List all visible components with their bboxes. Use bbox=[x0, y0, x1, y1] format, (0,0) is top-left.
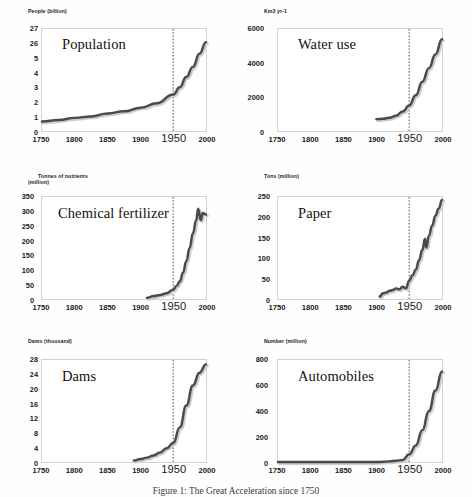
y-tick-label: 16 bbox=[30, 399, 38, 408]
y-tick-labels: 050100150200250300350 bbox=[8, 196, 34, 300]
x-tick-label: 2000 bbox=[199, 303, 216, 312]
x-tick-label: 1750 bbox=[33, 303, 50, 312]
x-tick-labels: 175018001850190019502000 bbox=[277, 303, 443, 317]
x-tick-label: 1800 bbox=[302, 303, 319, 312]
y-tick-label: 150 bbox=[22, 251, 34, 260]
y-tick-labels: 0123452627 bbox=[12, 28, 38, 132]
plot-area: Population bbox=[41, 28, 207, 132]
series-line-shadow bbox=[378, 41, 444, 121]
plot-area: Paper bbox=[277, 196, 443, 300]
x-tick-labels: 175018001850190019502000 bbox=[277, 135, 443, 149]
y-tick-labels: 0481216202428 bbox=[12, 359, 38, 463]
x-tick-label: 1750 bbox=[33, 466, 50, 475]
y-axis-unit-label: Km3 yr-1 bbox=[264, 8, 287, 14]
series-line bbox=[134, 364, 206, 460]
series-title: Paper bbox=[298, 205, 332, 222]
x-tick-label: 1850 bbox=[335, 135, 352, 144]
x-tick-label: 1900 bbox=[132, 303, 149, 312]
y-axis-unit-label: People (billion) bbox=[28, 8, 67, 14]
x-tick-label: 1900 bbox=[368, 466, 385, 475]
plot-area: Dams bbox=[41, 359, 207, 463]
y-tick-label: 100 bbox=[258, 254, 270, 263]
y-tick-label: 1 bbox=[34, 113, 38, 122]
x-tick-label: 1850 bbox=[99, 303, 116, 312]
y-tick-label: 800 bbox=[256, 355, 268, 364]
series-line bbox=[278, 371, 442, 462]
x-tick-label: 1850 bbox=[335, 303, 352, 312]
y-tick-label: 50 bbox=[262, 275, 270, 284]
y-tick-label: 600 bbox=[256, 381, 268, 390]
x-tick-label: 1850 bbox=[99, 135, 116, 144]
x-tick-label: 2000 bbox=[435, 466, 452, 475]
plot-area: Automobiles bbox=[277, 359, 443, 463]
series-line-shadow bbox=[279, 373, 443, 464]
chart-panel-chemical-fertilizer: Tonnes of nutrients (million) 0501001502… bbox=[0, 165, 236, 330]
x-tick-label: 2000 bbox=[199, 135, 216, 144]
x-tick-label: 2000 bbox=[199, 466, 216, 475]
x-tick-labels: 175018001850190019502000 bbox=[277, 466, 443, 480]
x-tick-label: 1850 bbox=[99, 466, 116, 475]
x-tick-label: 1950 bbox=[397, 132, 422, 144]
x-tick-label: 1800 bbox=[302, 466, 319, 475]
plot-area: Water use bbox=[277, 28, 443, 132]
y-tick-label: 6000 bbox=[248, 24, 264, 33]
y-tick-label: 27 bbox=[30, 24, 38, 33]
y-tick-label: 350 bbox=[22, 192, 34, 201]
x-tick-label: 1900 bbox=[132, 135, 149, 144]
x-tick-label: 1950 bbox=[397, 463, 422, 475]
x-tick-label: 2000 bbox=[435, 135, 452, 144]
y-tick-label: 28 bbox=[30, 355, 38, 364]
series-line bbox=[42, 42, 206, 121]
x-tick-label: 1950 bbox=[161, 132, 186, 144]
y-axis-unit-label: Number (million) bbox=[264, 338, 307, 344]
y-axis-unit-label: Dams (thousand) bbox=[28, 338, 72, 344]
chart-panel-automobiles: Number (million) 0200400600800 Automobil… bbox=[236, 330, 472, 481]
x-tick-label: 1750 bbox=[33, 135, 50, 144]
x-tick-label: 1750 bbox=[269, 466, 286, 475]
y-tick-label: 2 bbox=[34, 98, 38, 107]
chart-panel-paper: Tons (million) 050100150200250 Paper 175… bbox=[236, 165, 472, 330]
y-tick-label: 2000 bbox=[248, 93, 264, 102]
x-tick-label: 1750 bbox=[269, 303, 286, 312]
y-tick-label: 200 bbox=[22, 236, 34, 245]
y-tick-label: 12 bbox=[30, 414, 38, 423]
x-tick-label: 1950 bbox=[161, 300, 186, 312]
y-tick-label: 50 bbox=[26, 281, 34, 290]
series-title: Chemical fertilizer bbox=[58, 205, 169, 222]
y-tick-label: 250 bbox=[258, 192, 270, 201]
chart-panel-dams: Dams (thousand) 0481216202428 Dams 17501… bbox=[0, 330, 236, 481]
x-tick-labels: 175018001850190019502000 bbox=[41, 135, 207, 149]
y-tick-label: 250 bbox=[22, 221, 34, 230]
x-tick-label: 2000 bbox=[435, 303, 452, 312]
x-tick-label: 1950 bbox=[161, 463, 186, 475]
chart-panel-population: People (billion) 0123452627 Population 1… bbox=[0, 0, 236, 165]
y-tick-label: 150 bbox=[258, 233, 270, 242]
y-tick-label: 0 bbox=[260, 128, 264, 137]
y-tick-label: 0 bbox=[264, 459, 268, 468]
y-tick-label: 3 bbox=[34, 83, 38, 92]
y-tick-label: 400 bbox=[256, 407, 268, 416]
x-tick-label: 1900 bbox=[368, 135, 385, 144]
y-tick-label: 24 bbox=[30, 369, 38, 378]
x-tick-label: 1800 bbox=[66, 303, 83, 312]
series-title: Automobiles bbox=[298, 368, 374, 385]
y-tick-labels: 0200040006000 bbox=[238, 28, 264, 132]
x-tick-label: 1800 bbox=[66, 466, 83, 475]
y-tick-label: 200 bbox=[258, 212, 270, 221]
x-tick-labels: 175018001850190019502000 bbox=[41, 303, 207, 317]
y-tick-labels: 050100150200250 bbox=[244, 196, 270, 300]
y-tick-labels: 0200400600800 bbox=[242, 359, 268, 463]
y-tick-label: 20 bbox=[30, 384, 38, 393]
x-tick-label: 1950 bbox=[397, 300, 422, 312]
x-tick-label: 1900 bbox=[368, 303, 385, 312]
great-acceleration-figure: People (billion) 0123452627 Population 1… bbox=[0, 0, 472, 481]
y-tick-label: 4 bbox=[34, 68, 38, 77]
y-axis-unit-label: Tons (million) bbox=[264, 173, 299, 179]
y-tick-label: 4000 bbox=[248, 58, 264, 67]
y-tick-label: 26 bbox=[30, 38, 38, 47]
series-title: Dams bbox=[62, 368, 96, 385]
y-tick-label: 200 bbox=[256, 433, 268, 442]
y-tick-label: 4 bbox=[34, 444, 38, 453]
series-title: Population bbox=[62, 36, 126, 53]
series-title: Water use bbox=[298, 36, 356, 53]
